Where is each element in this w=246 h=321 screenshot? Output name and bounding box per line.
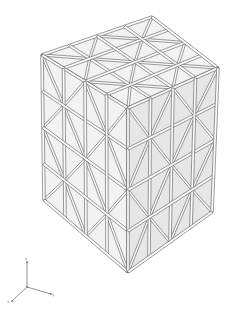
3d-viewport[interactable]: z y x <box>0 0 246 321</box>
lattice-cube-model[interactable] <box>0 0 246 321</box>
axis-label-y: y <box>52 292 54 297</box>
axis-label-z: z <box>25 256 27 261</box>
axis-label-x: x <box>7 299 9 304</box>
axis-x-line <box>12 287 27 301</box>
axis-y-line <box>27 287 51 294</box>
axis-triad <box>11 261 52 302</box>
